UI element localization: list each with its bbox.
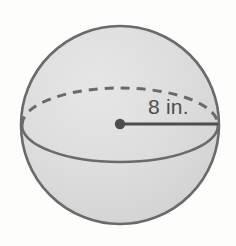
radius-measurement-label: 8 in. — [148, 95, 189, 118]
sphere-diagram-svg: 8 in. — [0, 0, 236, 246]
center-point-dot — [115, 119, 125, 129]
sphere-figure: 8 in. — [0, 0, 236, 246]
